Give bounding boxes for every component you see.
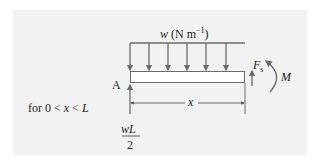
- condition-label: for 0 < x < L: [28, 102, 89, 114]
- support-label-a: A: [112, 79, 121, 91]
- distributed-load: [130, 43, 245, 70]
- moment-label: M: [281, 71, 291, 83]
- load-label: w (N m−1): [160, 27, 209, 40]
- beam-diagram: [0, 0, 321, 166]
- beam: [131, 72, 245, 83]
- reaction-numerator: wL: [121, 123, 136, 135]
- reaction-denominator: 2: [127, 139, 133, 151]
- moment-arrow-icon: [266, 61, 277, 92]
- dimension-x-label: x: [188, 96, 193, 108]
- shear-force-label: Fs: [253, 59, 263, 74]
